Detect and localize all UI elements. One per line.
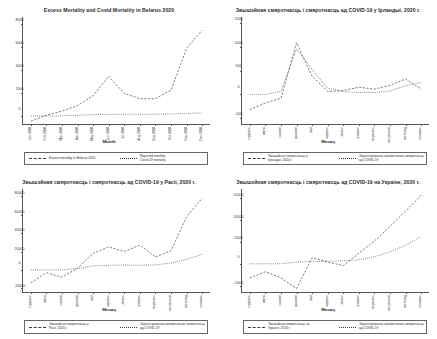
legend-item: Звышэйная смяротнасць уІрландыі, 2020 г. bbox=[244, 155, 335, 163]
x-tick-mark bbox=[312, 124, 313, 126]
legend-label: Зарэгістраваная штомесячная смяротнасцьа… bbox=[359, 323, 424, 331]
x-tick-mark bbox=[124, 124, 125, 126]
figure-sheet: Excess Mortality and Covid Mortality in … bbox=[0, 0, 437, 339]
legend-item: Reported monthlyCovid-19 mortality bbox=[116, 155, 207, 163]
y-tick-mark bbox=[21, 252, 23, 253]
x-tick-mark bbox=[297, 292, 298, 294]
y-tick-label: 1500 bbox=[235, 18, 243, 22]
series-line bbox=[250, 49, 421, 94]
y-tick-label: 500 bbox=[236, 65, 242, 69]
x-tick-label: лістапад bbox=[404, 127, 407, 140]
y-tick-mark bbox=[21, 233, 23, 234]
plot-area-belarus: 02000400060008000Jan 2020Feb 2020Mar 202… bbox=[22, 17, 210, 125]
y-tick-label: 0 bbox=[238, 256, 240, 260]
y-tick-label: -20000 bbox=[14, 285, 25, 289]
series-line bbox=[31, 30, 202, 121]
x-tick-label: люты bbox=[263, 127, 266, 135]
y-tick-label: 15000 bbox=[234, 194, 244, 198]
y-tick-mark bbox=[21, 288, 23, 289]
legend: Звышэйная смяротнасць уРасіі, 2020 г.Зар… bbox=[24, 320, 208, 334]
x-tick-mark bbox=[390, 124, 391, 126]
x-tick-label: красавік bbox=[295, 127, 298, 139]
y-tick-label: 0 bbox=[19, 262, 21, 266]
y-tick-mark bbox=[21, 196, 23, 197]
x-tick-mark bbox=[374, 124, 375, 126]
chart-panel-ireland: Звышэйная смяротнасць і смяротнасць ад C… bbox=[219, 0, 437, 172]
y-tick-mark bbox=[21, 70, 23, 71]
x-tick-label: красавік bbox=[76, 295, 79, 307]
y-tick-mark bbox=[21, 24, 23, 25]
x-tick-label: чэрвень bbox=[326, 127, 329, 139]
x-tick-mark bbox=[62, 292, 63, 294]
x-tick-mark bbox=[155, 292, 156, 294]
legend-swatch bbox=[29, 327, 46, 328]
x-tick-label: снежань bbox=[419, 127, 422, 139]
legend-label: Excess mortality in Belarus 2020 bbox=[49, 157, 95, 161]
x-tick-mark bbox=[31, 124, 32, 126]
x-tick-mark bbox=[265, 124, 266, 126]
legend-item: Зарэгістраваная штомесячная смяротнасцьа… bbox=[335, 323, 426, 331]
y-tick-label: 60000 bbox=[15, 211, 25, 215]
chart-panel-russia: Звышэйная смяротнасць і смяротнасць ад C… bbox=[0, 172, 218, 339]
x-tick-mark bbox=[297, 124, 298, 126]
x-tick-mark bbox=[171, 124, 172, 126]
y-tick-label: 20000 bbox=[15, 248, 25, 252]
x-tick-label: люты bbox=[44, 295, 47, 303]
y-tick-mark bbox=[21, 116, 23, 117]
x-tick-mark bbox=[421, 292, 422, 294]
x-tick-mark bbox=[140, 292, 141, 294]
y-tick-mark bbox=[240, 71, 242, 72]
x-tick-mark bbox=[109, 292, 110, 294]
y-tick-label: 6000 bbox=[16, 42, 24, 46]
x-tick-label: ліпень bbox=[341, 127, 344, 137]
x-tick-mark bbox=[265, 292, 266, 294]
legend: Excess mortality in Belarus 2020Reported… bbox=[24, 152, 208, 165]
y-tick-label: 0 bbox=[238, 86, 240, 90]
y-tick-mark bbox=[21, 93, 23, 94]
y-tick-mark bbox=[240, 94, 242, 95]
x-tick-label: май bbox=[310, 127, 313, 133]
legend-item: Excess mortality in Belarus 2020 bbox=[25, 157, 116, 161]
y-tick-label: 1000 bbox=[235, 42, 243, 46]
chart-title: Звышэйная смяротнасць і смяротнасць ад C… bbox=[0, 179, 218, 185]
x-tick-mark bbox=[359, 124, 360, 126]
x-tick-mark bbox=[46, 292, 47, 294]
x-tick-mark bbox=[390, 292, 391, 294]
legend-item: Звышэйная смяротнасць уРасіі, 2020 г. bbox=[25, 323, 116, 331]
x-tick-label: Jul 2020 bbox=[122, 127, 125, 139]
x-tick-mark bbox=[406, 124, 407, 126]
y-tick-mark bbox=[240, 220, 242, 221]
legend-swatch bbox=[29, 158, 46, 159]
legend: Звышэйная смяротнасць уІрландыі, 2020 г.… bbox=[243, 152, 427, 165]
y-tick-mark bbox=[240, 23, 242, 24]
legend: Звышэйная смяротнасць наУкраіне, 2020 г.… bbox=[243, 320, 427, 334]
x-tick-mark bbox=[281, 292, 282, 294]
legend-item: Зарэгістраваная штомесячная смяротнасцьа… bbox=[335, 155, 426, 163]
legend-item: Зарэгістраваная штомесячная смяротнасцьа… bbox=[116, 323, 207, 331]
y-tick-mark bbox=[21, 270, 23, 271]
x-tick-label: чэрвень bbox=[107, 295, 110, 307]
x-tick-mark bbox=[187, 292, 188, 294]
x-tick-mark bbox=[109, 124, 110, 126]
plot-frame: -20000020000400006000080000студзеньлютыс… bbox=[22, 189, 210, 293]
chart-panel-ukraine: Звышэйная смяротнасць і смяротнасць ад C… bbox=[219, 172, 437, 339]
legend-swatch bbox=[248, 327, 265, 328]
x-tick-mark bbox=[328, 292, 329, 294]
x-tick-label: жнівень bbox=[357, 127, 360, 138]
x-tick-mark bbox=[250, 292, 251, 294]
x-tick-label: жнівень bbox=[138, 295, 141, 306]
plot-area-russia: -20000020000400006000080000студзеньлютыс… bbox=[22, 189, 210, 293]
y-tick-mark bbox=[240, 264, 242, 265]
x-axis-title: Месяц bbox=[219, 139, 437, 144]
y-tick-mark bbox=[240, 198, 242, 199]
legend-label: Звышэйная смяротнасць уІрландыі, 2020 г. bbox=[268, 155, 308, 163]
x-tick-label: красавік bbox=[295, 295, 298, 307]
plot-area-ukraine: -5000050001000015000студзеньлютысакавікк… bbox=[241, 189, 429, 293]
legend-swatch bbox=[339, 327, 356, 328]
y-tick-label: -500 bbox=[235, 113, 242, 117]
x-tick-mark bbox=[281, 124, 282, 126]
x-tick-label: лістапад bbox=[404, 295, 407, 308]
x-tick-mark bbox=[78, 292, 79, 294]
plot-frame: -500050010001500студзеньлютысакавіккраса… bbox=[241, 17, 429, 125]
chart-panel-belarus: Excess Mortality and Covid Mortality in … bbox=[0, 0, 218, 172]
